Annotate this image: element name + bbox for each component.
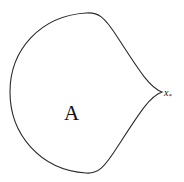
diagram-canvas: A x* (0, 0, 184, 182)
point-label-x-star: x* (163, 87, 172, 100)
point-label-subscript: * (168, 92, 172, 100)
region-label-A: A (64, 101, 80, 125)
region-boundary-curve (10, 13, 162, 173)
